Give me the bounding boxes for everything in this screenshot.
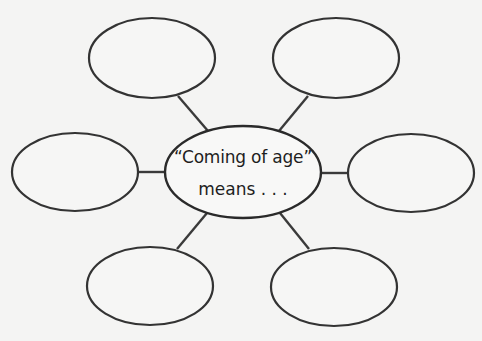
connector-top-left [178, 96, 208, 131]
bubble-bottom-left [87, 247, 213, 325]
connector-top-right [279, 96, 308, 131]
bubble-top-left [89, 18, 215, 98]
connector-bottom-left [177, 213, 207, 249]
concept-web-diagram: “Coming of age” means . . . [0, 0, 482, 341]
bubble-left [12, 133, 138, 211]
center-bubble [165, 126, 321, 218]
bubble-bottom-right [271, 248, 397, 326]
connector-bottom-right [280, 213, 309, 249]
diagram-canvas [0, 0, 482, 341]
bubble-top-right [273, 18, 399, 98]
bubble-right [348, 134, 474, 212]
